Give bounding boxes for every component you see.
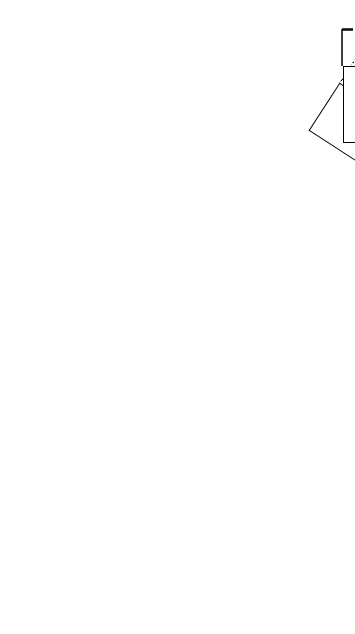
figure-canvas: 60Co Source ✵ 1 2 PHS 1 PHS 2 τ n2 nc n1 <box>279 0 355 634</box>
figure-line-overlay <box>279 0 355 634</box>
wire-detector2-to-phs2 <box>342 30 353 66</box>
figure-rotator: 60Co Source ✵ 1 2 PHS 1 PHS 2 τ n2 nc n1 <box>279 0 355 634</box>
apparatus-wiring <box>342 29 355 323</box>
